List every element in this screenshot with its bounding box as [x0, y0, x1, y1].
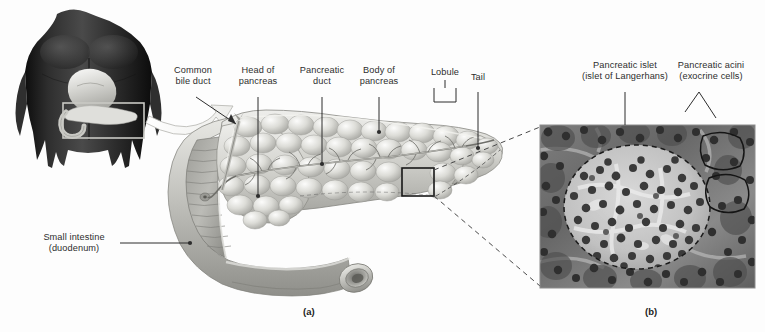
panel-b-label: (b)	[645, 306, 657, 317]
label-small-intestine: Small intestine (duodenum)	[26, 232, 122, 254]
body-orientation-inset	[16, 9, 162, 168]
pancreas-and-duodenum-illustration	[168, 110, 503, 297]
pancreas-histology-micrograph	[534, 122, 756, 293]
label-common-bile-duct: Common bile duct	[163, 65, 223, 87]
pancreas-figure: Common bile duct Head of pancreas Pancre…	[0, 0, 765, 332]
figure-artwork	[0, 0, 765, 332]
label-body-of-pancreas: Body of pancreas	[349, 65, 409, 87]
label-head-of-pancreas: Head of pancreas	[228, 65, 288, 87]
label-pancreatic-duct: Pancreatic duct	[291, 65, 353, 87]
panel-a-label: (a)	[303, 306, 315, 317]
label-tail: Tail	[461, 72, 495, 83]
label-pancreatic-acini: Pancreatic acini (exocrine cells)	[661, 60, 761, 82]
